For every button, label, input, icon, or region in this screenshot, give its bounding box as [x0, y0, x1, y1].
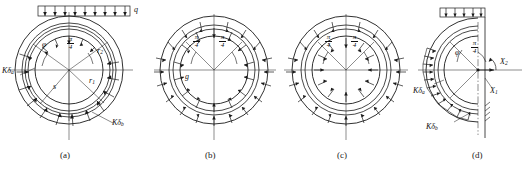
angle-arc-left-b	[191, 52, 196, 64]
label-self-weight-g: g	[185, 72, 189, 81]
label-kdelta-b-d: Kδb	[426, 122, 438, 131]
label-kdelta-a-d: Kδa	[413, 86, 425, 95]
label-radius-r2-a: r2	[97, 46, 103, 55]
label-pi-over-4-right-b: π 4	[219, 34, 226, 49]
label-kdelta-b: Kδb	[112, 118, 124, 127]
load-arrowheads-a	[43, 12, 127, 16]
phi-arc-a	[42, 53, 48, 66]
label-phi-d: φ	[455, 48, 459, 57]
panel-d: φ π 4 X2 X1 Kδa Kδb (d)	[410, 0, 530, 178]
label-force-x1-d: X1	[490, 86, 498, 95]
label-pi-over-4-d: π 4	[471, 40, 478, 55]
label-pi-over-4-left-c: π 4	[325, 34, 332, 49]
angle-arc-right-b	[232, 52, 237, 64]
label-arc-s-a: s	[53, 82, 56, 91]
label-radius-r1-a: r1	[89, 76, 95, 85]
panel-a: q φ π 4 r2 r1 s Kδa Kδb (a)	[0, 0, 150, 178]
load-box-a	[38, 6, 130, 16]
caption-panel-b: (b)	[205, 150, 216, 160]
load-arrowheads-d	[444, 13, 482, 17]
panel-a-drawing	[0, 0, 150, 178]
load-box-d	[440, 8, 485, 17]
support-hatch-d	[485, 102, 490, 121]
figure-container: q φ π 4 r2 r1 s Kδa Kδb (a)	[0, 0, 530, 178]
caption-panel-a: (a)	[60, 150, 70, 160]
label-pi-over-4-left-b: π 4	[193, 34, 200, 49]
caption-panel-c: (c)	[337, 150, 347, 160]
resistance-arrows-a	[17, 54, 120, 126]
caption-panel-d: (d)	[472, 150, 483, 160]
panel-d-drawing	[410, 0, 530, 178]
label-kdelta-a: Kδa	[2, 66, 14, 75]
label-force-x2-d: X2	[500, 57, 508, 66]
panel-b: π 4 π 4 g (b)	[150, 0, 280, 178]
panel-c: π 4 π 4 (c)	[280, 0, 410, 178]
label-phi-a: φ	[42, 40, 46, 49]
label-pi-over-4-right-c: π 4	[351, 34, 358, 49]
label-load-q: q	[134, 5, 138, 14]
label-pi-over-4-a: π 4	[67, 36, 74, 51]
